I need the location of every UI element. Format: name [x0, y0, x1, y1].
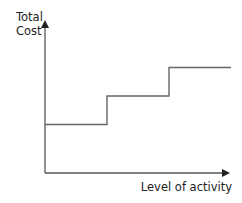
x-axis-label: Level of activity: [141, 180, 232, 194]
chart-canvas: [0, 0, 242, 203]
total-cost-step-line: [45, 68, 231, 125]
